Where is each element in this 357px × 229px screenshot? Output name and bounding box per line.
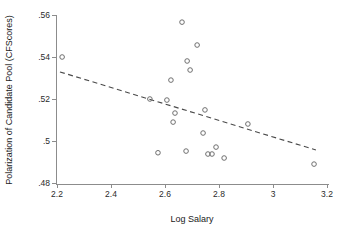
y-axis-title: Polarization of Candidate Pool (CFScores… — [4, 15, 14, 185]
x-axis-tick-label: 3 — [271, 189, 276, 199]
x-axis-tick-label: 2.4 — [105, 189, 117, 199]
x-axis-tick-label: 3.2 — [321, 189, 333, 199]
plot-canvas: .48.5.52.54.56 2.22.42.62.833.2 Polariza… — [0, 0, 357, 229]
x-axis-tick-label: 2.8 — [213, 189, 225, 199]
scatter-plot-figure: .48.5.52.54.56 2.22.42.62.833.2 Polariza… — [0, 0, 357, 229]
y-axis-tick-label: .56 — [38, 10, 50, 20]
y-axis-tick-label: .48 — [38, 178, 50, 188]
x-axis-tick-label: 2.2 — [51, 189, 63, 199]
x-axis-tick-label: 2.6 — [159, 189, 171, 199]
y-axis-tick-label: .52 — [38, 94, 50, 104]
y-axis-tick-label: .54 — [38, 52, 50, 62]
y-axis-tick-label: .5 — [43, 136, 50, 146]
x-axis-title: Log Salary — [170, 214, 214, 224]
